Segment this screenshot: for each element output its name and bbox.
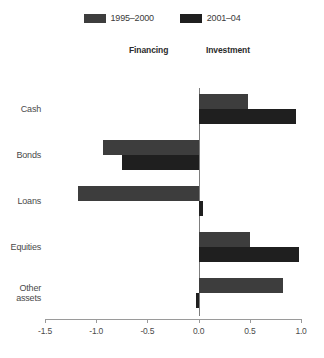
x-axis-tick-label: -1.5 bbox=[38, 326, 52, 336]
bar bbox=[199, 247, 299, 262]
x-axis-tick bbox=[301, 319, 302, 323]
category-label-line: Other bbox=[0, 283, 41, 293]
category-label: Equities bbox=[0, 242, 41, 252]
bar bbox=[196, 293, 199, 308]
column-header-financing: Financing bbox=[129, 45, 168, 55]
category-label-line: assets bbox=[0, 293, 41, 303]
category-label: Loans bbox=[0, 196, 41, 206]
plot-area bbox=[45, 88, 301, 316]
x-axis-tick-label: -0.5 bbox=[140, 326, 154, 336]
legend-item-0: 1995–2000 bbox=[84, 13, 154, 23]
bar-rows bbox=[45, 88, 301, 316]
x-axis-tick-label: -1.0 bbox=[89, 326, 103, 336]
legend-swatch-icon-1 bbox=[180, 14, 202, 23]
bar bbox=[122, 155, 199, 170]
bar-group bbox=[45, 278, 301, 308]
x-axis-tick bbox=[250, 319, 251, 323]
category-label: Cash bbox=[0, 104, 41, 114]
category-label: Bonds bbox=[0, 150, 41, 160]
bar bbox=[199, 232, 250, 247]
bar bbox=[199, 278, 283, 293]
x-axis-tick bbox=[199, 319, 200, 323]
category-label-line: Equities bbox=[0, 242, 41, 252]
chart-legend: 1995–2000 2001–04 bbox=[0, 13, 324, 23]
x-axis-tick bbox=[45, 319, 46, 323]
bar-group bbox=[45, 232, 301, 262]
bar-group bbox=[45, 140, 301, 170]
x-axis-tick bbox=[96, 319, 97, 323]
x-axis-tick-label: 1.0 bbox=[295, 326, 306, 336]
legend-label-0: 1995–2000 bbox=[111, 13, 154, 23]
x-axis-tick-label: 0.0 bbox=[193, 326, 204, 336]
column-header-investment: Investment bbox=[206, 45, 250, 55]
bar bbox=[103, 140, 198, 155]
x-axis-line bbox=[45, 319, 301, 320]
bar bbox=[199, 94, 248, 109]
category-label-line: Bonds bbox=[0, 150, 41, 160]
x-axis-tick bbox=[147, 319, 148, 323]
legend-label-1: 2001–04 bbox=[207, 13, 241, 23]
category-label: Otherassets bbox=[0, 283, 41, 303]
chart-container: 1995–2000 2001–04 Financing Investment C… bbox=[0, 0, 324, 358]
bar bbox=[78, 186, 199, 201]
bar bbox=[199, 201, 203, 216]
x-axis-tick-label: 0.5 bbox=[244, 326, 255, 336]
category-label-line: Loans bbox=[0, 196, 41, 206]
bar bbox=[199, 109, 296, 124]
bar-group bbox=[45, 94, 301, 124]
legend-item-1: 2001–04 bbox=[180, 13, 241, 23]
legend-swatch-icon-0 bbox=[84, 14, 106, 23]
bar-group bbox=[45, 186, 301, 216]
category-label-line: Cash bbox=[0, 104, 41, 114]
